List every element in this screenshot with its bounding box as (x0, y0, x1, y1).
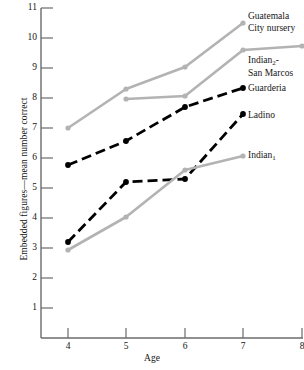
series-label-ladino-text: Ladino (248, 110, 275, 120)
series-ladino (65, 111, 246, 245)
series-label-guarderia-text: Guarderia (248, 83, 286, 93)
series-label-indian1-name: Indian (248, 150, 272, 160)
chart-container: 11 10 9 8 7 6 5 4 3 2 1 4 5 6 7 8 Embedd… (0, 0, 304, 370)
series-label-indian2-line2: San Marcos (248, 68, 293, 78)
series-label-guatemala-city-nursery: Guatemala City nursery (248, 11, 295, 34)
x-tick-label-6: 6 (175, 341, 195, 351)
y-tick-label-1: 1 (17, 302, 37, 312)
x-tick-label-7: 7 (233, 341, 253, 351)
series-label-indian2-dash: - (276, 55, 279, 65)
series-guatemala-city-nursery (65, 20, 245, 130)
series-label-indian1-subscript: 1 (272, 154, 276, 162)
series-label-guatemala-line1: Guatemala (248, 11, 289, 21)
y-tick-label-10: 10 (17, 32, 37, 42)
series-label-indian2-san-marcos: Indian2- San Marcos (248, 55, 293, 79)
y-axis-ticks (41, 8, 53, 308)
series-indian1 (65, 153, 245, 252)
x-axis-title: Age (0, 353, 304, 363)
series-label-indian2-name: Indian (248, 55, 272, 65)
series-label-indian2-subscript: 2 (272, 59, 276, 67)
series-label-ladino: Ladino (248, 110, 275, 122)
y-axis-title: Embedded figures—mean number correct (19, 59, 29, 299)
x-tick-label-4: 4 (58, 341, 78, 351)
series-label-indian1: Indian1 (248, 150, 276, 163)
x-tick-label-8: 8 (292, 341, 304, 351)
x-tick-label-5: 5 (116, 341, 136, 351)
x-axis-ticks (68, 328, 302, 338)
series-label-guarderia: Guarderia (248, 83, 286, 95)
series-label-guatemala-line2: City nursery (248, 23, 295, 33)
y-tick-label-11: 11 (17, 2, 37, 12)
